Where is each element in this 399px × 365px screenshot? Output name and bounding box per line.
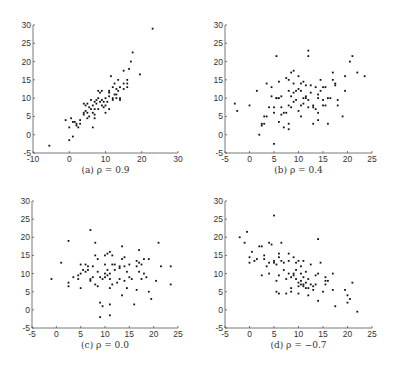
data-point bbox=[51, 278, 53, 280]
data-point bbox=[96, 103, 98, 105]
data-point bbox=[303, 285, 305, 287]
data-point bbox=[117, 79, 119, 81]
data-point bbox=[76, 125, 78, 127]
data-point bbox=[99, 92, 101, 94]
data-point bbox=[68, 240, 70, 242]
data-point bbox=[307, 294, 309, 296]
data-point bbox=[278, 121, 280, 123]
data-point bbox=[310, 84, 312, 86]
data-point bbox=[295, 99, 297, 101]
data-point bbox=[337, 105, 339, 107]
x-tick-label: 25 bbox=[367, 329, 377, 339]
data-point bbox=[79, 119, 81, 121]
data-point bbox=[273, 112, 275, 114]
data-point bbox=[283, 262, 285, 264]
x-tick-label: 0 bbox=[67, 154, 72, 164]
data-point bbox=[288, 105, 290, 107]
y-tick-label: 15 bbox=[214, 75, 224, 85]
data-point bbox=[121, 245, 123, 247]
data-point bbox=[107, 269, 109, 271]
data-point bbox=[300, 284, 302, 286]
data-point bbox=[280, 242, 282, 244]
data-point bbox=[119, 99, 121, 101]
x-tick-label: 5 bbox=[78, 329, 83, 339]
data-point bbox=[90, 99, 92, 101]
data-point bbox=[293, 101, 295, 103]
data-point bbox=[109, 251, 111, 253]
y-tick-label: -5 bbox=[22, 323, 30, 333]
data-point bbox=[280, 95, 282, 97]
data-point bbox=[349, 61, 351, 63]
data-point bbox=[303, 97, 305, 99]
data-point bbox=[295, 269, 297, 271]
data-point bbox=[307, 287, 309, 289]
y-tick-label: 10 bbox=[22, 93, 32, 103]
data-point bbox=[126, 86, 128, 88]
data-point bbox=[128, 264, 130, 266]
data-point bbox=[329, 97, 331, 99]
data-point bbox=[119, 265, 121, 267]
data-point bbox=[130, 61, 132, 63]
data-point bbox=[138, 249, 140, 251]
data-point bbox=[290, 106, 292, 108]
data-point bbox=[170, 284, 172, 286]
data-point bbox=[103, 101, 105, 103]
data-point bbox=[48, 145, 50, 147]
y-tick-label: 10 bbox=[214, 93, 224, 103]
data-point bbox=[119, 267, 121, 269]
data-point bbox=[96, 99, 98, 101]
data-point bbox=[271, 86, 273, 88]
scatter-panel-b: -50510152025-5051015202530(b) ρ = 0.4 bbox=[214, 20, 377, 175]
data-point bbox=[114, 94, 116, 96]
data-point bbox=[300, 105, 302, 107]
data-point bbox=[148, 258, 150, 260]
data-point bbox=[119, 86, 121, 88]
data-point bbox=[87, 265, 89, 267]
data-point bbox=[280, 106, 282, 108]
data-point bbox=[108, 90, 110, 92]
data-point bbox=[92, 276, 94, 278]
data-point bbox=[139, 73, 141, 75]
data-point bbox=[99, 276, 101, 278]
data-point bbox=[332, 289, 334, 291]
data-point bbox=[124, 265, 126, 267]
y-tick-label: 20 bbox=[214, 57, 224, 67]
data-point bbox=[97, 271, 99, 273]
data-point bbox=[288, 123, 290, 125]
data-point bbox=[105, 105, 107, 107]
data-point bbox=[97, 258, 99, 260]
data-point bbox=[128, 68, 130, 70]
data-point bbox=[298, 88, 300, 90]
data-point bbox=[303, 284, 305, 286]
y-tick-label: 15 bbox=[214, 250, 224, 260]
data-point bbox=[347, 294, 349, 296]
data-point bbox=[293, 92, 295, 94]
data-point bbox=[300, 116, 302, 118]
data-point bbox=[90, 108, 92, 110]
y-tick-label: 5 bbox=[218, 111, 223, 121]
data-point bbox=[68, 282, 70, 284]
data-point bbox=[97, 108, 99, 110]
data-point bbox=[136, 265, 138, 267]
data-point bbox=[300, 265, 302, 267]
data-point bbox=[271, 95, 273, 97]
y-tick-label: 20 bbox=[214, 232, 224, 242]
data-point bbox=[82, 269, 84, 271]
data-point bbox=[317, 97, 319, 99]
y-tick-label: 0 bbox=[218, 305, 223, 315]
data-point bbox=[70, 117, 72, 119]
data-point bbox=[80, 264, 82, 266]
data-point bbox=[110, 75, 112, 77]
data-point bbox=[300, 273, 302, 275]
data-point bbox=[99, 316, 101, 318]
data-point bbox=[273, 262, 275, 264]
data-point bbox=[74, 121, 76, 123]
data-point bbox=[85, 271, 87, 273]
data-point bbox=[72, 136, 74, 138]
data-point bbox=[307, 55, 309, 57]
data-point bbox=[103, 106, 105, 108]
data-point bbox=[273, 215, 275, 217]
data-point bbox=[310, 264, 312, 266]
data-point bbox=[234, 103, 236, 105]
data-point bbox=[344, 289, 346, 291]
